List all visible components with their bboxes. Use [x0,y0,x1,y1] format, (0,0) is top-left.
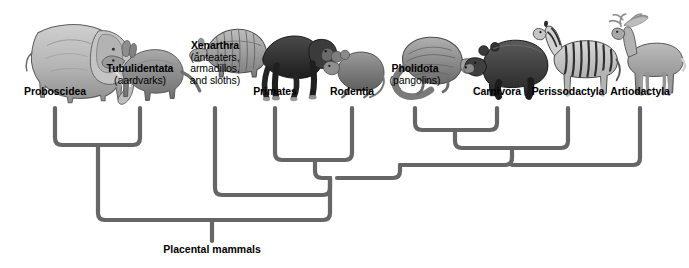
taxon-label-artiodactyla: Artiodactyla [592,86,688,98]
taxon-label-xenarthra: Xenarthra (anteaters, armadillos, and sl… [172,40,258,86]
taxon-common-xenarthra-line3: and sloths) [172,75,258,87]
taxon-common-xenarthra-line2: armadillos, [172,63,258,75]
taxon-sci-proboscidea: Proboscidea [5,86,105,98]
root-label-placental-mammals: Placental mammals [142,243,282,255]
taxon-sci-rodentia: Rodentia [311,86,393,98]
taxon-label-primates: Primates [233,86,317,98]
taxon-label-pholidota: Pholidota (pangolins) [368,63,462,86]
taxon-common-pholidota: (pangolins) [368,75,462,87]
taxon-label-proboscidea: Proboscidea [5,86,105,98]
taxon-labels-layer: Proboscidea Tubulidentata (aardvarks) Xe… [0,0,689,268]
taxon-sci-primates: Primates [233,86,317,98]
taxon-sci-artiodactyla: Artiodactyla [592,86,688,98]
taxon-sci-xenarthra: Xenarthra [172,40,258,52]
taxon-label-rodentia: Rodentia [311,86,393,98]
cladogram-figure: Proboscidea Tubulidentata (aardvarks) Xe… [0,0,689,268]
taxon-sci-pholidota: Pholidota [368,63,462,75]
